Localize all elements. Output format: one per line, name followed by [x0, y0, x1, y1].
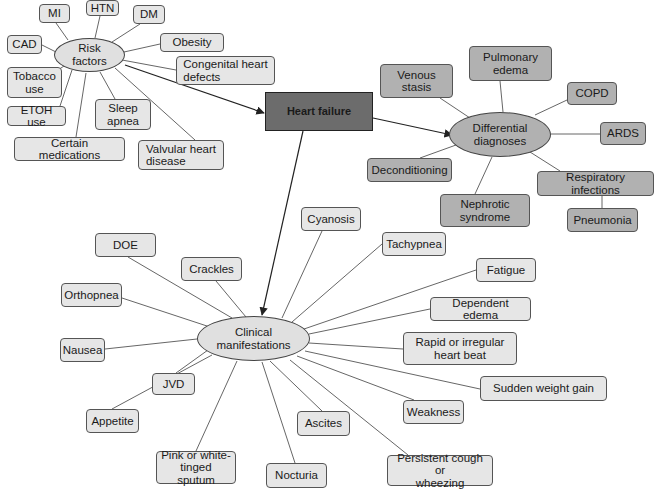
- connector-line: [420, 145, 456, 158]
- connector-line: [122, 60, 176, 70]
- differential-diagnosis-node: ARDS: [600, 122, 646, 145]
- clinical-manifestation-node: Rapid or irregular heart beat: [403, 332, 517, 365]
- risk-factor-label: Tobacco use: [13, 70, 56, 95]
- connector-line: [309, 343, 403, 349]
- differential-diagnosis-node: Pneumonia: [567, 208, 638, 232]
- connector-line: [176, 350, 208, 373]
- connector-line: [122, 298, 210, 327]
- clinical-manifestation-node: Appetite: [86, 409, 139, 433]
- heart-failure-node: Heart failure: [265, 92, 373, 131]
- connector-line: [262, 362, 295, 463]
- risk-factor-node: Sleep apnea: [95, 99, 151, 130]
- connector-line: [100, 72, 115, 99]
- connector-line: [112, 24, 140, 42]
- differential-diagnosis-node: COPD: [567, 82, 617, 105]
- differential-diagnosis-label: Deconditioning: [371, 164, 447, 177]
- connector-line: [290, 360, 408, 455]
- risk-factor-label: ETOH use: [12, 104, 61, 129]
- arrow-connector: [373, 118, 452, 135]
- clinical-manifestation-label: Rapid or irregular heart beat: [416, 336, 505, 361]
- risk-factors-hub: Risk factors: [54, 38, 125, 72]
- clinical-manifestation-label: Sudden weight gain: [493, 382, 594, 395]
- clinical-manifestation-label: Pink or white- tinged sputum: [161, 449, 231, 487]
- clinical-manifestation-node: JVD: [152, 373, 195, 395]
- clinical-manifestation-node: Nausea: [60, 338, 105, 362]
- clinical-manifestation-node: Orthopnea: [61, 283, 122, 307]
- clinical-manifestation-node: Fatigue: [476, 258, 536, 282]
- clinical-manifestation-node: Tachypnea: [382, 232, 446, 256]
- connector-line: [530, 152, 560, 171]
- clinical-manifestation-node: Ascites: [297, 411, 350, 436]
- clinical-manifestation-label: Appetite: [91, 415, 133, 428]
- risk-factor-label: Sleep apnea: [107, 102, 139, 127]
- clinical-manifestation-label: Nocturia: [275, 469, 318, 482]
- connector-line: [535, 100, 567, 115]
- connector-line: [105, 339, 197, 349]
- risk-factor-label: HTN: [91, 2, 115, 15]
- connector-line: [297, 356, 414, 400]
- clinical-manifestation-node: Weakness: [403, 400, 464, 424]
- differential-diagnosis-node: Pulmonary edema: [469, 46, 552, 81]
- clinical-manifestation-node: Nocturia: [266, 463, 327, 488]
- risk-factor-node: DM: [133, 5, 165, 24]
- clinical-manifestation-label: Weakness: [407, 406, 460, 419]
- connector-line: [500, 81, 503, 112]
- arrow-connector: [262, 131, 303, 315]
- differential-diagnosis-label: Pneumonia: [573, 214, 631, 227]
- risk-factor-node: CAD: [7, 35, 42, 54]
- clinical-manifestation-node: Sudden weight gain: [480, 376, 607, 401]
- clinical-manifestations-hub: Clinical manifestations: [197, 316, 310, 361]
- clinical-manifestation-node: Cyanosis: [301, 207, 361, 231]
- clinical-manifestation-node: Crackles: [181, 257, 242, 281]
- connector-line: [292, 244, 382, 322]
- clinical-manifestation-label: Nausea: [63, 344, 103, 357]
- differential-diagnosis-node: Deconditioning: [367, 158, 452, 182]
- risk-factor-node: HTN: [86, 0, 119, 16]
- connector-line: [440, 98, 470, 118]
- connector-line: [95, 16, 100, 38]
- risk-factor-node: Valvular heart disease: [138, 140, 224, 170]
- differential-diagnosis-label: COPD: [575, 87, 608, 100]
- clinical-manifestation-label: Ascites: [305, 417, 342, 430]
- connector-line: [56, 23, 68, 40]
- differential-diagnosis-label: Pulmonary edema: [483, 51, 538, 76]
- connector-line: [270, 361, 322, 411]
- risk-factor-node: Certain medications: [14, 137, 125, 161]
- differential-diagnosis-label: ARDS: [607, 127, 639, 140]
- connector-line: [76, 73, 86, 137]
- connector-line: [196, 361, 237, 451]
- risk-factor-label: CAD: [12, 38, 36, 51]
- clinical-manifestation-label: Orthopnea: [64, 289, 118, 302]
- differential-diagnosis-node: Nephrotic syndrome: [440, 194, 530, 227]
- heart-failure-label: Heart failure: [287, 105, 351, 118]
- clinical-manifestation-label: DOE: [113, 239, 138, 252]
- connector-line: [282, 231, 322, 318]
- differential-diagnosis-node: Respiratory infections: [537, 171, 654, 196]
- risk-factor-label: Congenital heart defects: [183, 58, 267, 83]
- clinical-manifestation-node: Persistent cough or wheezing: [387, 455, 493, 486]
- connector-line: [475, 157, 492, 194]
- clinical-manifestation-node: Pink or white- tinged sputum: [156, 451, 236, 484]
- risk-factor-node: Obesity: [160, 33, 224, 52]
- differential-diagnosis-node: Venous stasis: [380, 64, 453, 98]
- clinical-manifestation-node: DOE: [95, 233, 156, 257]
- differential-diagnosis-label: Nephrotic syndrome: [460, 198, 511, 223]
- risk-factor-label: Valvular heart disease: [146, 143, 216, 168]
- risk-factor-node: Congenital heart defects: [176, 56, 275, 85]
- risk-factor-label: DM: [140, 8, 158, 21]
- differential-diagnoses-hub: Differential diagnoses: [449, 112, 551, 157]
- risk-factor-label: Obesity: [173, 36, 212, 49]
- differential-diagnosis-label: Respiratory infections: [542, 171, 649, 196]
- clinical-manifestation-label: JVD: [163, 378, 185, 391]
- clinical-manifestation-label: Persistent cough or wheezing: [392, 452, 488, 490]
- risk-factors-label: Risk factors: [72, 42, 107, 68]
- differential-diagnoses-label: Differential diagnoses: [473, 122, 528, 148]
- clinical-manifestations-label: Clinical manifestations: [216, 326, 290, 352]
- risk-factor-node: ETOH use: [7, 106, 66, 126]
- risk-factor-node: MI: [39, 4, 70, 23]
- clinical-manifestation-label: Fatigue: [487, 264, 525, 277]
- clinical-manifestation-label: Tachypnea: [386, 238, 442, 251]
- connector-line: [124, 44, 160, 52]
- clinical-manifestation-label: Dependent edema: [435, 297, 526, 322]
- clinical-manifestation-label: Crackles: [189, 263, 234, 276]
